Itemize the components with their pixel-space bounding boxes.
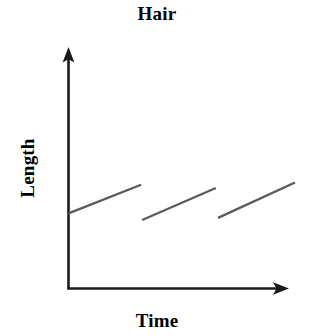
growth-segment-2 [142, 188, 216, 220]
plot-area [0, 0, 314, 336]
x-axis-label: Time [0, 310, 314, 332]
growth-segment-3 [218, 183, 295, 218]
growth-segment-1 [69, 185, 142, 214]
chart-figure: Hair Length Time [0, 0, 314, 336]
hair-length-series [69, 183, 296, 221]
